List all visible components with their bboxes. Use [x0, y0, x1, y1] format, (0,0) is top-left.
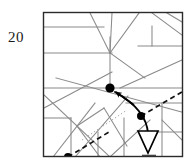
- vertex-main-dot: [105, 83, 114, 92]
- line-diag-fan-d: [110, 53, 145, 78]
- line-diag-fan-c: [110, 13, 139, 53]
- line-diag-far-right: [162, 120, 182, 140]
- dashed-lines: [68, 86, 192, 157]
- line-diag-fan-b: [110, 13, 112, 53]
- line-arrangement-diagram: [0, 0, 195, 167]
- vertex-secondary-dot: [137, 112, 145, 120]
- dashed-upper-right: [141, 86, 192, 116]
- hollow-triangle-pointer: [138, 131, 158, 153]
- line-diag-box-left: [77, 108, 104, 126]
- line-diag-upper-right: [152, 13, 182, 35]
- line-diag-left-steep: [53, 103, 95, 157]
- line-diag-right-slope: [120, 60, 182, 88]
- line-diag-fan-a: [90, 13, 110, 53]
- figure-container: 20: [0, 0, 195, 167]
- line-diag-near-top-right: [167, 13, 182, 22]
- vertex-dots: [64, 83, 145, 161]
- line-diag-box-bottom: [77, 126, 100, 157]
